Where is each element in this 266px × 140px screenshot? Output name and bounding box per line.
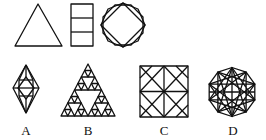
option-c-label[interactable]: C [160,124,169,137]
option-b-label[interactable]: B [84,124,93,137]
option-c-figure[interactable] [140,66,188,117]
question-figure-octagon-square [101,3,145,47]
question-figure-stacked-rectangle [71,4,93,46]
option-a-label[interactable]: A [21,124,30,137]
option-a-figure[interactable] [13,65,39,113]
option-b-figure[interactable] [61,64,115,116]
question-figure-triangle [15,4,62,46]
option-d-figure[interactable] [209,68,255,117]
figure-canvas [0,0,266,140]
option-d-label[interactable]: D [228,124,237,137]
